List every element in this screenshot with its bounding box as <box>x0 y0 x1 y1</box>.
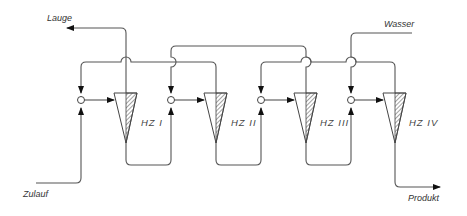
label-hz3: HZ III <box>320 117 349 128</box>
label-hz1: HZ I <box>141 117 163 128</box>
mixer-2 <box>168 97 175 104</box>
label-hz2: HZ II <box>231 117 257 128</box>
zulauf-line <box>36 108 81 183</box>
hydrocyclone-3 <box>294 93 317 143</box>
label-hz4: HZ IV <box>409 117 439 128</box>
produkt-line <box>395 143 440 187</box>
hydrocyclone-1 <box>114 93 137 143</box>
wasser-line <box>351 33 412 93</box>
hydrocyclone-4 <box>383 93 406 143</box>
hz2-overflow-line <box>81 57 216 93</box>
label-wasser: Wasser <box>384 19 415 29</box>
hydrocyclone-cascade-diagram: Lauge Wasser Zulauf Produkt HZ I HZ II H… <box>0 0 467 216</box>
hz3-overflow-line <box>171 46 311 93</box>
mixer-4 <box>348 97 355 104</box>
mixer-1 <box>78 97 85 104</box>
label-zulauf: Zulauf <box>22 189 50 199</box>
lauge-line <box>67 28 126 93</box>
mixer-3 <box>258 97 265 104</box>
label-produkt: Produkt <box>408 193 440 203</box>
hz4-overflow-line <box>261 57 395 93</box>
label-lauge: Lauge <box>47 13 72 23</box>
hydrocyclone-2 <box>204 93 227 143</box>
